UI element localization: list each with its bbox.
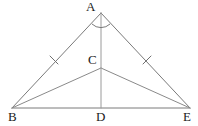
segment-ae: [101, 13, 190, 108]
vertex-label-a: A: [86, 0, 95, 13]
figure-canvas: [0, 0, 198, 126]
segment-bc: [12, 68, 101, 108]
vertex-label-e: E: [183, 110, 191, 123]
vertex-label-c: C: [88, 53, 97, 66]
geometry-figure: A C B D E: [0, 0, 198, 126]
vertex-label-b: B: [8, 110, 17, 123]
segment-ce: [101, 68, 190, 108]
vertex-label-d: D: [96, 110, 105, 123]
